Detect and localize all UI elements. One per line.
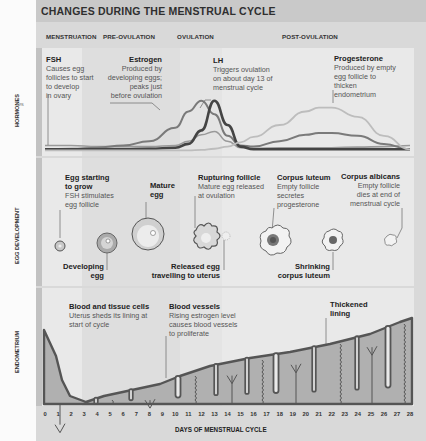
- egg-stage-rupturing-title: Rupturing follicle: [198, 173, 260, 182]
- egg-stage-corpus-albicans-desc: Empty follicledies at end ofmenstrual cy…: [320, 181, 400, 208]
- phase-post-ovulation: POST-OVULATION: [282, 33, 338, 40]
- x-tick-label: 27: [390, 411, 404, 417]
- section-label-egg-development: EGG DEVELOPMENT: [14, 207, 20, 264]
- phase-ovulation: OVULATION: [177, 33, 214, 40]
- x-tick-label: 6: [116, 411, 130, 417]
- x-tick-label: 11: [181, 411, 195, 417]
- x-axis-label: DAYS OF MENSTRUAL CYCLE: [175, 426, 267, 433]
- x-tick-label: 17: [260, 411, 274, 417]
- egg-stage-rupturing-desc: Mature egg releasedat ovulation: [198, 182, 264, 200]
- section-label-hormones: HORMONES: [14, 94, 20, 127]
- x-tick-label: 7: [129, 411, 143, 417]
- endometrium-thickened-title: Thickenedlining: [330, 300, 368, 318]
- x-tick-label: 25: [364, 411, 378, 417]
- x-tick-label: 4: [90, 411, 104, 417]
- x-tick-label: 15: [234, 411, 248, 417]
- diagram-title: CHANGES DURING THE MENSTRUAL CYCLE: [41, 5, 276, 17]
- egg-stage-starting-title: Egg startingto grow: [65, 173, 109, 191]
- x-tick-label: 19: [286, 411, 300, 417]
- egg-stage-shrinking-title: Shrinkingcorpus luteum: [270, 262, 330, 280]
- x-tick-label: 3: [77, 411, 91, 417]
- x-tick-label: 1: [51, 411, 65, 417]
- x-tick-label: 16: [247, 411, 261, 417]
- hormone-lh-title: LH: [213, 56, 223, 65]
- egg-stage-corpus-luteum-desc: Empty folliclesecretesprogesterone: [277, 182, 319, 209]
- hormone-estrogen-title: Estrogen: [88, 55, 162, 64]
- egg-stage-corpus-albicans-title: Corpus albicans: [330, 172, 400, 181]
- hormone-estrogen-desc: Produced bydeveloping eggs;peaks justbef…: [78, 64, 162, 100]
- x-tick-label: 22: [325, 411, 339, 417]
- x-tick-label: 18: [273, 411, 287, 417]
- endometrium-blood-cells-desc: Uterus sheds its lining atstart of cycle: [69, 311, 147, 329]
- egg-stage-released-title: Released eggtravelling to uterus: [140, 262, 220, 280]
- x-tick-label: 28: [403, 411, 417, 417]
- x-tick-label: 26: [377, 411, 391, 417]
- hormone-lh-desc: Triggers ovulationon about day 13 ofmens…: [213, 65, 273, 92]
- x-tick-label: 8: [142, 411, 156, 417]
- phase-menstruation: MENSTRUATION: [46, 33, 97, 40]
- x-tick-label: 21: [312, 411, 326, 417]
- x-tick-label: 23: [338, 411, 352, 417]
- x-tick-label: 24: [351, 411, 365, 417]
- egg-stage-mature-title: Matureegg: [150, 181, 175, 199]
- x-tick-label: 20: [299, 411, 313, 417]
- x-tick-label: 10: [168, 411, 182, 417]
- x-tick-label: 14: [221, 411, 235, 417]
- endometrium-blood-vessels-title: Blood vessels: [169, 302, 220, 311]
- endometrium-blood-cells-title: Blood and tissue cells: [69, 302, 149, 311]
- x-tick-label: 2: [64, 411, 78, 417]
- hormones-sidebar: [36, 48, 42, 156]
- x-tick-label: 9: [155, 411, 169, 417]
- hormone-progesterone-desc: Produced by emptyegg follicle tothickene…: [334, 63, 396, 99]
- x-tick-label: 5: [103, 411, 117, 417]
- hormone-progesterone-title: Progesterone: [334, 54, 383, 63]
- x-tick-label: 0: [38, 411, 52, 417]
- endometrium-sidebar: [36, 288, 42, 406]
- egg-stage-starting-desc: FSH stimulatesegg follicle: [65, 191, 114, 209]
- hormone-fsh-title: FSH: [46, 55, 61, 64]
- endometrium-blood-vessels-desc: Rising estrogen levelcauses blood vessel…: [169, 311, 237, 338]
- egg-development-sidebar: [36, 158, 42, 286]
- section-label-endometrium: ENDOMETRIUM: [14, 331, 20, 373]
- x-tick-label: 13: [207, 411, 221, 417]
- x-tick-label: 12: [194, 411, 208, 417]
- phase-pre-ovulation: PRE-OVULATION: [103, 33, 155, 40]
- egg-stage-developing-title: Developingegg: [50, 262, 104, 280]
